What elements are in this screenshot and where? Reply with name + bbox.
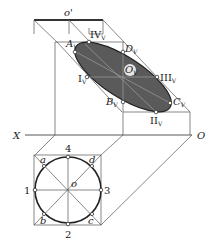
label-C-V: CV [173, 96, 186, 108]
projectors-lower [35, 135, 192, 225]
xo-axis: X O [12, 130, 205, 141]
label-2: 2 [65, 229, 71, 240]
label-c: c [88, 215, 94, 226]
circle-view: 4 1 3 2 o a d b c [24, 143, 110, 240]
label-X: X [12, 130, 21, 141]
label-IV-V: IVV [90, 29, 106, 41]
label-4: 4 [65, 143, 71, 154]
label-b: b [40, 215, 46, 226]
label-o: o [71, 178, 77, 189]
label-O: O [197, 130, 205, 141]
label-1: 1 [24, 185, 30, 196]
label-III-V: IIIV [160, 72, 177, 84]
label-A-V: AV [65, 38, 78, 50]
label-d: d [89, 154, 95, 165]
projection-diagram: o' AV IVV [0, 0, 214, 250]
label-o-prime: o' [64, 7, 73, 18]
label-II-V: IIV [150, 115, 163, 127]
label-D-V: DV [124, 43, 138, 55]
label-B-V: BV [105, 96, 118, 108]
label-3: 3 [104, 185, 110, 196]
label-I-V: IV [78, 73, 87, 85]
label-a: a [40, 154, 46, 165]
